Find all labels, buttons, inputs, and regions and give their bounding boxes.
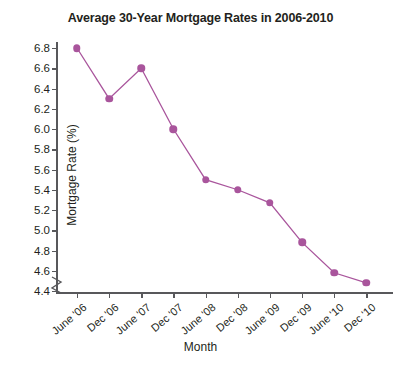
data-point-marker <box>363 279 371 287</box>
y-tick-label: 6.4 <box>34 83 50 95</box>
x-tick-mark <box>270 292 271 298</box>
y-tick-mark <box>52 48 57 49</box>
x-tick-label: June '09 <box>242 301 281 337</box>
y-tick-label: 5.4 <box>34 184 50 196</box>
y-tick-mark <box>52 170 57 171</box>
y-tick-mark <box>52 230 57 231</box>
x-tick-mark <box>366 292 367 298</box>
data-point-marker <box>202 176 210 184</box>
x-tick-mark <box>302 292 303 298</box>
y-tick-mark <box>52 210 57 211</box>
data-point-marker <box>105 95 113 103</box>
y-tick-mark <box>52 68 57 69</box>
y-tick-label: 6.8 <box>34 42 50 54</box>
y-tick-label: 6.6 <box>34 62 50 74</box>
x-tick-mark <box>141 292 142 298</box>
data-point-marker <box>330 269 338 277</box>
series-polyline <box>77 48 366 283</box>
x-tick-mark <box>173 292 174 298</box>
x-tick-label: June '07 <box>114 301 153 337</box>
x-tick-mark <box>238 292 239 298</box>
y-tick-label: 6.0 <box>34 123 50 135</box>
y-tick-mark <box>52 89 57 90</box>
y-tick-label: 4.6 <box>34 265 50 277</box>
y-tick-mark <box>52 251 57 252</box>
x-tick-mark <box>334 292 335 298</box>
y-tick-label: 4.4 <box>34 285 50 297</box>
x-tick-mark <box>77 292 78 298</box>
series-line <box>57 45 393 291</box>
x-axis-title: Month <box>0 340 401 354</box>
y-tick-mark <box>52 129 57 130</box>
x-tick-label: June '06 <box>49 301 88 337</box>
data-point-marker <box>170 125 178 133</box>
y-tick-label: 6.2 <box>34 103 50 115</box>
data-point-marker <box>137 65 145 73</box>
y-tick-mark <box>52 190 57 191</box>
plot-area: 6.86.66.46.26.05.85.65.45.25.04.84.64.4 … <box>57 45 393 291</box>
x-tick-label: June '08 <box>178 301 217 337</box>
y-tick-label: 5.8 <box>34 143 50 155</box>
data-point-marker <box>234 186 242 194</box>
mortgage-rate-line-chart: Average 30-Year Mortgage Rates in 2006-2… <box>0 0 401 374</box>
y-tick-mark <box>52 109 57 110</box>
x-tick-mark <box>206 292 207 298</box>
x-tick-label: June '10 <box>307 301 346 337</box>
y-tick-label: 5.0 <box>34 224 50 236</box>
y-tick-mark <box>52 149 57 150</box>
data-point-marker <box>298 239 306 247</box>
x-tick-label: Dec '10 <box>342 301 378 334</box>
y-tick-mark <box>52 271 57 272</box>
data-point-marker <box>266 199 274 207</box>
x-axis-line <box>56 292 393 294</box>
y-tick-label: 5.2 <box>34 204 50 216</box>
x-tick-mark <box>109 292 110 298</box>
chart-title: Average 30-Year Mortgage Rates in 2006-2… <box>0 11 401 25</box>
y-tick-mark <box>52 291 57 292</box>
y-tick-label: 4.8 <box>34 245 50 257</box>
data-point-marker <box>73 44 81 52</box>
y-tick-label: 5.6 <box>34 164 50 176</box>
